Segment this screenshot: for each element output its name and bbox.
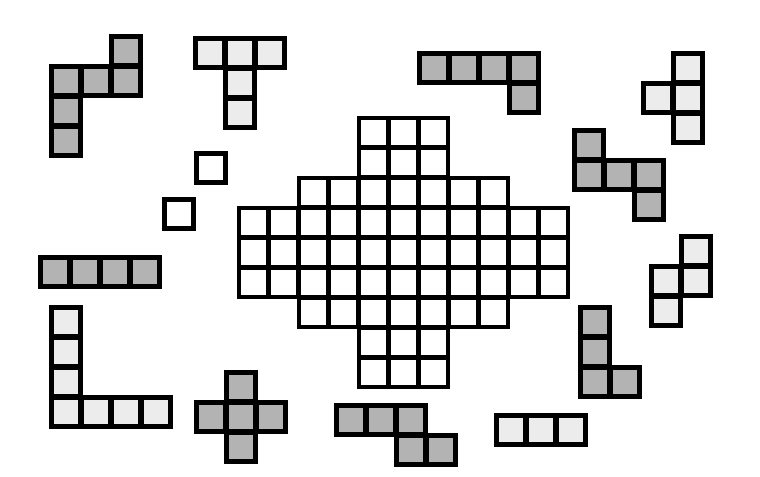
piece-cell [424, 433, 458, 467]
board-cell[interactable] [447, 236, 480, 269]
piece-cell [79, 395, 113, 429]
piece-cell [224, 370, 258, 404]
board-cell[interactable] [387, 236, 420, 269]
piece-cell [109, 34, 143, 68]
board-cell[interactable] [327, 266, 360, 299]
piece-cell [49, 395, 83, 429]
board-cell[interactable] [297, 206, 330, 239]
board-cell[interactable] [297, 176, 330, 209]
board-cell[interactable] [327, 176, 360, 209]
board-cell[interactable] [297, 296, 330, 329]
board-cell[interactable] [477, 236, 510, 269]
board-cell[interactable] [387, 176, 420, 209]
piece-cell [679, 264, 713, 298]
board-cell[interactable] [477, 206, 510, 239]
board-cell[interactable] [417, 116, 450, 149]
board-cell[interactable] [357, 176, 390, 209]
piece-cell [364, 403, 398, 437]
piece-cell [254, 400, 288, 434]
piece-cell [162, 197, 196, 231]
piece-cell [417, 51, 451, 85]
board-cell[interactable] [507, 266, 540, 299]
board-cell[interactable] [327, 236, 360, 269]
board-cell[interactable] [237, 206, 270, 239]
board-cell[interactable] [357, 236, 390, 269]
piece-cell [223, 36, 257, 70]
board-cell[interactable] [387, 206, 420, 239]
board-cell[interactable] [447, 296, 480, 329]
board-cell[interactable] [507, 236, 540, 269]
piece-cell [447, 51, 481, 85]
board-cell[interactable] [267, 266, 300, 299]
piece-cell [394, 433, 428, 467]
board-cell[interactable] [387, 296, 420, 329]
board-cell[interactable] [417, 236, 450, 269]
piece-cell [671, 51, 705, 85]
piece-cell [602, 158, 636, 192]
piece-cell [109, 64, 143, 98]
piece-cell [507, 81, 541, 115]
board-cell[interactable] [357, 146, 390, 179]
board-cell[interactable] [417, 146, 450, 179]
piece-cell [334, 403, 368, 437]
board-cell[interactable] [417, 206, 450, 239]
board-cell[interactable] [417, 356, 450, 389]
piece-cell [223, 66, 257, 100]
piece-cell [477, 51, 511, 85]
board-cell[interactable] [387, 326, 420, 359]
board-cell[interactable] [357, 116, 390, 149]
board-cell[interactable] [267, 236, 300, 269]
piece-cell [253, 36, 287, 70]
piece-cell [223, 96, 257, 130]
board-cell[interactable] [537, 266, 570, 299]
piece-cell [507, 51, 541, 85]
board-cell[interactable] [477, 296, 510, 329]
board-cell[interactable] [387, 146, 420, 179]
piece-cell [79, 64, 113, 98]
board-cell[interactable] [297, 266, 330, 299]
board-cell[interactable] [327, 206, 360, 239]
board-cell[interactable] [387, 116, 420, 149]
board-cell[interactable] [387, 266, 420, 299]
board-cell[interactable] [357, 296, 390, 329]
board-cell[interactable] [237, 266, 270, 299]
board-cell[interactable] [537, 206, 570, 239]
board-cell[interactable] [417, 176, 450, 209]
piece-cell [671, 111, 705, 145]
board-cell[interactable] [417, 296, 450, 329]
board-cell[interactable] [477, 176, 510, 209]
board-cell[interactable] [357, 326, 390, 359]
board-cell[interactable] [297, 236, 330, 269]
piece-cell [224, 400, 258, 434]
piece-cell [139, 395, 173, 429]
piece-cell [49, 305, 83, 339]
board-cell[interactable] [417, 326, 450, 359]
piece-cell [578, 335, 612, 369]
board-cell[interactable] [357, 266, 390, 299]
piece-cell [608, 365, 642, 399]
board-cell[interactable] [447, 266, 480, 299]
board-cell[interactable] [417, 266, 450, 299]
piece-cell [49, 94, 83, 128]
piece-cell [649, 294, 683, 328]
board-cell[interactable] [447, 176, 480, 209]
board-cell[interactable] [267, 206, 300, 239]
board-cell[interactable] [357, 356, 390, 389]
piece-cell [109, 395, 143, 429]
board-cell[interactable] [477, 266, 510, 299]
piece-cell [98, 255, 132, 289]
board-cell[interactable] [327, 296, 360, 329]
board-cell[interactable] [537, 236, 570, 269]
board-cell[interactable] [357, 206, 390, 239]
board-cell[interactable] [447, 206, 480, 239]
piece-cell [572, 128, 606, 162]
board-cell[interactable] [507, 206, 540, 239]
piece-cell [632, 188, 666, 222]
piece-cell [38, 255, 72, 289]
board-cell[interactable] [387, 356, 420, 389]
piece-cell [679, 234, 713, 268]
piece-cell [649, 264, 683, 298]
piece-cell [494, 413, 528, 447]
piece-cell [194, 400, 228, 434]
board-cell[interactable] [237, 236, 270, 269]
